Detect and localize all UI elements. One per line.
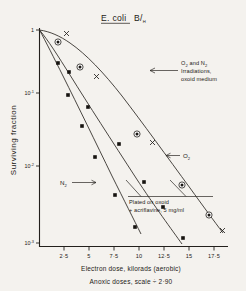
data-point [66, 93, 70, 97]
data-point [150, 140, 155, 145]
data-point [113, 193, 117, 197]
y-tick-label-10e-3: 10-3 [25, 239, 34, 246]
n2-label-group: N2 [60, 179, 96, 188]
chart-title-strain: B/H [134, 13, 146, 24]
oxoid-annotation: O2 and N2 Irradiations, oxoid medium [150, 60, 217, 82]
oxoid-annotation-line-3: oxoid medium [181, 76, 217, 82]
o2-label-group: O2 [166, 152, 191, 161]
data-point [133, 225, 137, 229]
data-point [67, 70, 71, 74]
y-tick-label-10e-1: 10-1 [25, 89, 34, 96]
data-point [94, 74, 99, 79]
acriflavine-annotation-line-2: + acriflavine, 5 mg/ml [129, 207, 184, 213]
y-tick-label-10e-2: 10-2 [25, 162, 34, 169]
oxoid-annotation-line-2: Irradiations, [181, 68, 212, 74]
data-point [206, 212, 212, 218]
x-tick-label: 2·5 [60, 253, 69, 259]
acriflavine-annotation: Plated on oxoid + acriflavine, 5 mg/ml [126, 180, 213, 213]
data-point [134, 131, 140, 137]
figure-canvas: 1 10-1 10-2 10-3 2·5 5 7·5 10 12·5 15 17… [0, 0, 246, 291]
data-point [56, 61, 60, 65]
data-point [117, 142, 121, 146]
y-tick-labels: 1 10-1 10-2 10-3 [25, 27, 34, 247]
o2-label: O2 [183, 152, 191, 161]
data-point [179, 182, 185, 188]
x-tick-label: 7·5 [110, 253, 119, 259]
x-tick-labels: 2·5 5 7·5 10 12·5 15 17·5 [60, 253, 221, 259]
x-tick-label: 5 [87, 253, 90, 259]
data-point [77, 64, 83, 70]
x-tick-label: 15 [186, 253, 193, 259]
x-axis-label-secondary: Anoxic doses, scale ÷ 2·90 [90, 278, 173, 285]
data-point [55, 39, 61, 45]
data-point [142, 180, 146, 184]
n2-label: N2 [60, 179, 67, 188]
y-axis-label: Surviving fraction [9, 105, 18, 175]
x-tick-label: 17·5 [208, 253, 220, 259]
data-point [80, 124, 84, 128]
survival-curve-chart: 1 10-1 10-2 10-3 2·5 5 7·5 10 12·5 15 17… [0, 0, 246, 291]
chart-title-species: E. coli [101, 13, 127, 23]
x-tick-label: 10 [136, 253, 143, 259]
chart-title: E. coli B/H [101, 13, 146, 24]
data-point [93, 155, 97, 159]
data-point [86, 105, 90, 109]
x-axis-label-primary: Electron dose, kilorads (aerobic) [81, 265, 181, 273]
oxoid-annotation-line-1: O2 and N2 [181, 60, 208, 68]
data-point [64, 31, 69, 36]
acriflavine-annotation-line-1: Plated on oxoid [129, 199, 169, 205]
y-tick-label-1: 1 [31, 27, 34, 33]
x-tick-label: 12·5 [158, 253, 170, 259]
x-tick-group [64, 247, 214, 251]
data-point [181, 236, 185, 240]
curve-n2 [40, 30, 142, 234]
